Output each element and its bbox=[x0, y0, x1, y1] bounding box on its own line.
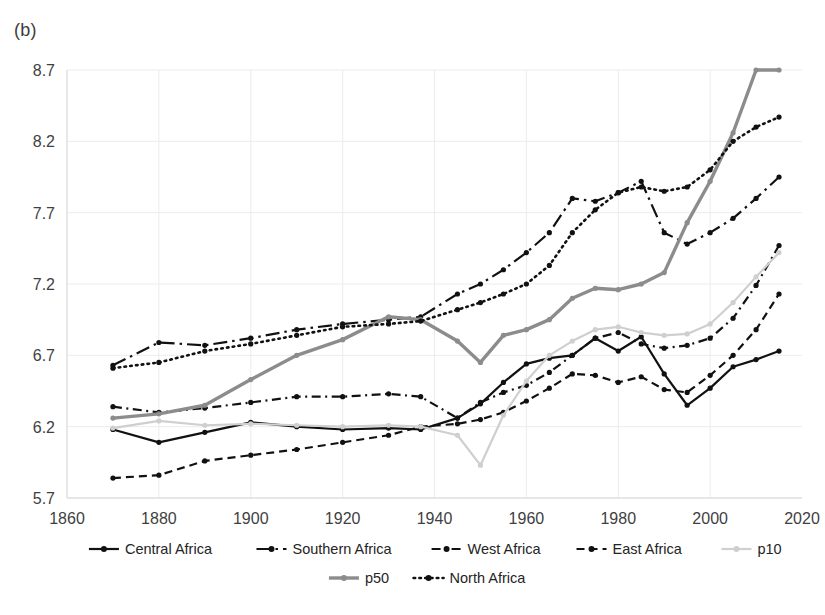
series-marker bbox=[753, 283, 758, 288]
series-marker bbox=[662, 333, 667, 338]
series-marker bbox=[730, 216, 735, 221]
series-marker bbox=[501, 333, 506, 338]
series-marker bbox=[524, 281, 529, 286]
series-p10 bbox=[110, 250, 781, 468]
series-marker bbox=[753, 196, 758, 201]
series-marker bbox=[662, 387, 667, 392]
series-southern-africa bbox=[110, 174, 781, 368]
x-tick-label: 1920 bbox=[325, 510, 361, 527]
series-marker bbox=[753, 124, 758, 129]
series-marker bbox=[294, 447, 299, 452]
legend-marker bbox=[733, 546, 739, 552]
series-marker bbox=[708, 167, 713, 172]
x-tick-label: 2000 bbox=[692, 510, 728, 527]
legend-label: p50 bbox=[365, 570, 389, 586]
series-marker bbox=[639, 330, 644, 335]
series-marker bbox=[685, 241, 690, 246]
series-marker bbox=[478, 400, 483, 405]
series-marker bbox=[294, 327, 299, 332]
series-marker bbox=[501, 291, 506, 296]
series-marker bbox=[593, 199, 598, 204]
series-marker bbox=[202, 430, 207, 435]
series-marker bbox=[730, 364, 735, 369]
legend-item-central-africa[interactable]: Central Africa bbox=[89, 541, 213, 557]
series-marker bbox=[776, 114, 781, 119]
series-marker bbox=[616, 380, 621, 385]
series-marker bbox=[386, 433, 391, 438]
series-marker bbox=[524, 398, 529, 403]
series-marker bbox=[730, 353, 735, 358]
series-line bbox=[113, 70, 779, 418]
legend-item-east-africa[interactable]: East Africa bbox=[577, 541, 683, 557]
series-marker bbox=[248, 336, 253, 341]
series-marker bbox=[386, 314, 391, 319]
series-marker bbox=[570, 338, 575, 343]
legend-item-p50[interactable]: p50 bbox=[329, 570, 389, 586]
series-marker bbox=[685, 390, 690, 395]
legend-item-west-africa[interactable]: West Africa bbox=[432, 541, 542, 557]
series-marker bbox=[501, 390, 506, 395]
series-marker bbox=[478, 300, 483, 305]
series-marker bbox=[776, 174, 781, 179]
series-marker bbox=[110, 425, 115, 430]
series-marker bbox=[248, 341, 253, 346]
chart-plot-area: 8.78.27.77.26.76.25.71860188019001920194… bbox=[0, 0, 825, 615]
legend-marker bbox=[444, 546, 450, 552]
series-marker bbox=[524, 361, 529, 366]
legend-label: Southern Africa bbox=[292, 541, 392, 557]
series-marker bbox=[685, 331, 690, 336]
y-tick-label: 6.2 bbox=[33, 419, 55, 436]
legend-marker bbox=[101, 546, 107, 552]
series-marker bbox=[294, 333, 299, 338]
series-marker bbox=[593, 207, 598, 212]
series-marker bbox=[570, 230, 575, 235]
series-marker bbox=[386, 391, 391, 396]
series-marker bbox=[340, 424, 345, 429]
legend-item-north-africa[interactable]: North Africa bbox=[414, 570, 527, 586]
legend-item-southern-africa[interactable]: Southern Africa bbox=[256, 541, 392, 557]
series-marker bbox=[501, 413, 506, 418]
series-marker bbox=[478, 417, 483, 422]
series-marker bbox=[639, 341, 644, 346]
chart-legend: Central AfricaSouthern AfricaWest Africa… bbox=[89, 541, 782, 586]
series-marker bbox=[776, 348, 781, 353]
series-marker bbox=[202, 458, 207, 463]
series-marker bbox=[570, 353, 575, 358]
series-marker bbox=[455, 338, 460, 343]
series-marker bbox=[776, 243, 781, 248]
series-p50 bbox=[110, 67, 781, 420]
legend-item-p10[interactable]: p10 bbox=[721, 541, 781, 557]
series-marker bbox=[547, 353, 552, 358]
series-marker bbox=[547, 317, 552, 322]
series-marker bbox=[524, 378, 529, 383]
x-tick-label: 1900 bbox=[233, 510, 269, 527]
gridlines bbox=[67, 70, 802, 498]
series-marker bbox=[547, 230, 552, 235]
series-marker bbox=[570, 371, 575, 376]
series-marker bbox=[708, 386, 713, 391]
series-line bbox=[113, 177, 779, 365]
series-marker bbox=[776, 250, 781, 255]
series-marker bbox=[524, 250, 529, 255]
series-marker bbox=[501, 380, 506, 385]
y-tick-label: 7.2 bbox=[33, 276, 55, 293]
series-marker bbox=[708, 230, 713, 235]
y-tick-label: 7.7 bbox=[33, 205, 55, 222]
x-tick-label: 1860 bbox=[49, 510, 85, 527]
series-marker bbox=[685, 220, 690, 225]
series-marker bbox=[730, 130, 735, 135]
legend-label: North Africa bbox=[450, 570, 527, 586]
series-marker bbox=[248, 377, 253, 382]
series-marker bbox=[418, 424, 423, 429]
series-marker bbox=[616, 287, 621, 292]
series-marker bbox=[156, 360, 161, 365]
series-marker bbox=[501, 267, 506, 272]
series-marker bbox=[524, 327, 529, 332]
series-marker bbox=[570, 196, 575, 201]
series-marker bbox=[639, 184, 644, 189]
series-marker bbox=[662, 346, 667, 351]
x-tick-label: 2020 bbox=[784, 510, 820, 527]
legend-label: Central Africa bbox=[125, 541, 213, 557]
series-marker bbox=[616, 330, 621, 335]
series-marker bbox=[156, 440, 161, 445]
